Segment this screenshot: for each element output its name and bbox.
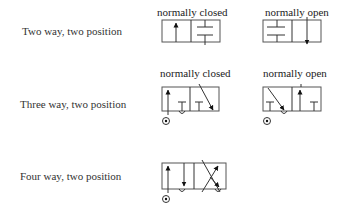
valve-diagram: normally closed normally open normally c… [0,0,350,213]
pressure-source-dot [266,120,268,122]
valve-2way-normally-open [263,17,321,44]
pressure-source-dot [165,198,167,200]
valve-3way-normally-closed [162,84,219,125]
valve-2way-normally-closed [162,20,220,45]
caption-two-way-open: normally open [265,6,329,18]
caption-three-way-open: normally open [263,67,327,79]
valve-3way-normally-open [263,84,321,125]
caption-three-way-closed: normally closed [160,67,231,79]
pressure-source-dot [165,120,167,122]
valve-4way [162,160,226,203]
caption-two-way-closed: normally closed [157,6,228,18]
